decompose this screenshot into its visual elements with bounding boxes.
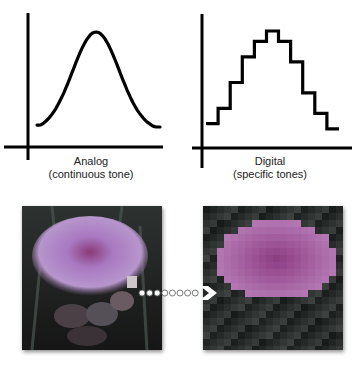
pixel-block <box>280 227 287 234</box>
pixel-block <box>287 346 294 350</box>
connector-dot <box>169 290 175 296</box>
pixel-block <box>280 297 287 304</box>
pixel-block <box>273 234 280 241</box>
pixel-block <box>238 297 245 304</box>
pixel-block <box>315 234 322 241</box>
pixel-block <box>336 241 343 248</box>
pixel-block <box>203 241 210 248</box>
pixel-block <box>245 227 252 234</box>
pixel-block <box>329 339 336 346</box>
pixel-block <box>273 220 280 227</box>
pixel-block <box>252 276 259 283</box>
pixel-block <box>217 304 224 311</box>
pixel-block <box>238 290 245 297</box>
pixel-block <box>266 339 273 346</box>
pixel-block <box>266 269 273 276</box>
pixel-block <box>336 220 343 227</box>
pixel-block <box>203 339 210 346</box>
pixel-block <box>273 206 280 213</box>
pixel-block <box>245 325 252 332</box>
pixel-block <box>238 269 245 276</box>
pixel-block <box>217 220 224 227</box>
pixel-block <box>322 206 329 213</box>
pixel-block <box>259 262 266 269</box>
pixel-block <box>294 255 301 262</box>
pixel-block <box>308 269 315 276</box>
pixel-block <box>273 304 280 311</box>
pixel-block <box>322 276 329 283</box>
pixel-block <box>336 234 343 241</box>
pixel-block <box>280 276 287 283</box>
pixel-block <box>203 269 210 276</box>
pixel-block <box>280 255 287 262</box>
pixel-block <box>322 318 329 325</box>
pixel-block <box>280 234 287 241</box>
pixel-block <box>329 346 336 350</box>
pixel-block <box>245 297 252 304</box>
pixel-block <box>329 297 336 304</box>
pixel-block <box>287 332 294 339</box>
pixel-block <box>259 297 266 304</box>
pixel-block <box>238 339 245 346</box>
pixel-block <box>329 262 336 269</box>
pixel-block <box>336 213 343 220</box>
pixel-block <box>287 290 294 297</box>
pixel-block <box>315 269 322 276</box>
pixel-block <box>224 346 231 350</box>
pixel-block <box>336 276 343 283</box>
analog-label: Analog (continuous tone) <box>16 155 166 181</box>
pixel-block <box>273 346 280 350</box>
pixel-block <box>203 325 210 332</box>
pixel-block <box>301 311 308 318</box>
pixel-block <box>266 213 273 220</box>
pixel-block <box>280 325 287 332</box>
digital-step-series <box>206 31 339 129</box>
pixel-block <box>301 297 308 304</box>
pixel-block <box>273 283 280 290</box>
pixel-block <box>259 227 266 234</box>
pixel-block <box>217 248 224 255</box>
connector-dot <box>177 290 183 296</box>
pixel-block <box>329 241 336 248</box>
pixel-block <box>203 332 210 339</box>
pixel-block <box>203 311 210 318</box>
pixel-block <box>252 304 259 311</box>
pixel-block <box>259 255 266 262</box>
pixel-block <box>266 297 273 304</box>
pixel-block <box>210 311 217 318</box>
pixel-block <box>322 213 329 220</box>
pixel-block <box>322 290 329 297</box>
pixel-block <box>308 248 315 255</box>
pixel-block <box>252 227 259 234</box>
pixel-block <box>322 304 329 311</box>
pixel-block <box>217 234 224 241</box>
pixel-block <box>294 339 301 346</box>
pixel-block <box>259 269 266 276</box>
pixel-block <box>266 248 273 255</box>
pixel-block <box>287 325 294 332</box>
pixel-block <box>259 311 266 318</box>
pixel-block <box>238 332 245 339</box>
pixel-block <box>217 269 224 276</box>
pixel-block <box>266 325 273 332</box>
pixel-block <box>238 311 245 318</box>
pixel-block <box>217 311 224 318</box>
pixel-block <box>294 234 301 241</box>
pixel-block <box>231 325 238 332</box>
connector-dot <box>192 290 198 296</box>
pixel-block <box>238 227 245 234</box>
pixel-block <box>217 283 224 290</box>
pixel-block <box>224 332 231 339</box>
pixel-block <box>280 220 287 227</box>
pixel-block <box>273 290 280 297</box>
pixel-block <box>301 241 308 248</box>
pixel-block <box>203 206 210 213</box>
pixel-block <box>287 241 294 248</box>
pixel-block <box>245 332 252 339</box>
pixel-block <box>245 304 252 311</box>
pixel-block <box>301 248 308 255</box>
pixel-block <box>245 318 252 325</box>
pixel-block <box>308 227 315 234</box>
pixel-block <box>231 297 238 304</box>
connector-dot <box>147 290 153 296</box>
